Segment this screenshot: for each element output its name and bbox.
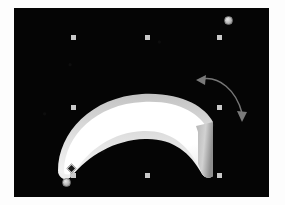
handle-middle-left[interactable] [71,105,76,110]
rotation-pivot-handle[interactable] [62,178,71,187]
drawing-canvas[interactable] [14,8,269,197]
handle-bottom-right[interactable] [217,173,222,178]
rotation-handle-top-right[interactable] [224,16,233,25]
handle-top-right[interactable] [217,35,222,40]
handle-bottom-center[interactable] [145,173,150,178]
banana-stem [196,122,213,178]
handle-top-left[interactable] [71,35,76,40]
handle-middle-right[interactable] [217,105,222,110]
handle-bottom-left[interactable] [71,173,76,178]
application-window [0,0,285,205]
banana-shape[interactable] [14,8,269,197]
handle-top-center[interactable] [145,35,150,40]
